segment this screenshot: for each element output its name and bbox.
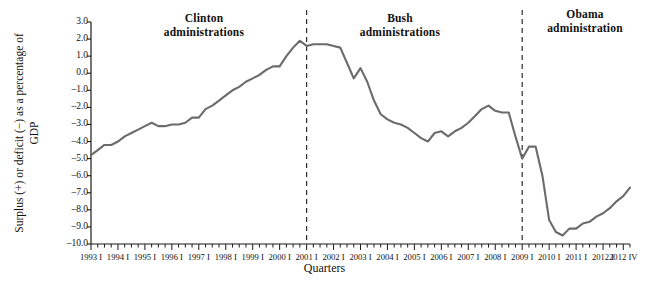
annotation-clinton-line2: administrations — [138, 26, 270, 40]
annotation-clinton-line1: Clinton — [138, 12, 270, 26]
annotation-bush-line2: administrations — [330, 26, 470, 40]
annotation-obama-line1: Obama — [525, 8, 645, 22]
y-axis-title: Surplus (+) or deficit (−) as a percenta… — [12, 28, 42, 238]
annotation-obama: Obama administration — [525, 8, 645, 35]
chart-figure: 3.02.01.00.0–1.0–2.0–3.0–4.0–5.0–6.0–7.0… — [0, 0, 649, 289]
annotation-bush: Bush administrations — [330, 12, 470, 39]
x-axis-title: Quarters — [0, 261, 649, 276]
annotation-bush-line1: Bush — [330, 12, 470, 26]
x-axis-tick-labels: 1993 I1994 I1995 I1996 I1997 I1998 I1999… — [0, 0, 649, 289]
annotation-obama-line2: administration — [525, 22, 645, 36]
annotation-clinton: Clinton administrations — [138, 12, 270, 39]
